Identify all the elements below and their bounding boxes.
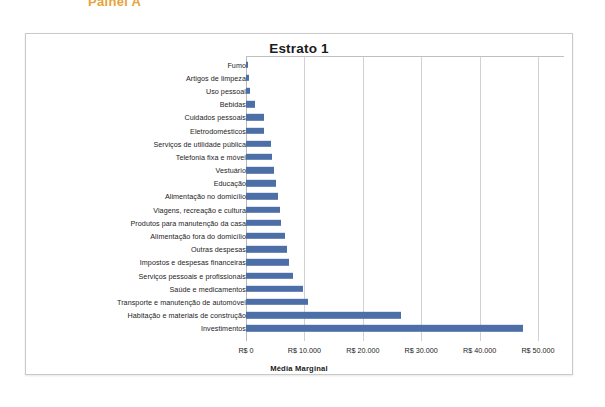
bar-row: Transporte e manutenção de automóvel <box>26 295 574 308</box>
category-label: Artigos de limpeza <box>186 73 246 82</box>
bar-row: Artigos de limpeza <box>26 71 574 84</box>
bar-row: Serviços pessoais e profissionais <box>26 269 574 282</box>
category-label: Fumo <box>227 60 246 69</box>
bar <box>246 127 264 133</box>
bar <box>246 259 289 265</box>
bar <box>246 220 281 226</box>
bar-row: Habitação e materiais de construção <box>26 309 574 322</box>
bar <box>246 299 308 305</box>
bar-row: Uso pessoal <box>26 84 574 97</box>
category-label: Eletrodomésticos <box>190 126 246 135</box>
category-label: Cuidados pessoais <box>184 113 246 122</box>
x-axis-title: Média Marginal <box>26 364 572 373</box>
bar-row: Eletrodomésticos <box>26 124 574 137</box>
category-label: Alimentação no domicílio <box>165 192 246 201</box>
category-label: Uso pessoal <box>206 86 246 95</box>
category-label: Alimentação fora do domicílio <box>150 232 246 241</box>
x-axis-line <box>246 56 564 57</box>
bar <box>246 75 249 81</box>
x-tick-label: R$ 50.000 <box>521 346 554 355</box>
chart-frame: Estrato 1 FumoArtigos de limpezaUso pess… <box>25 33 573 375</box>
bar <box>246 193 278 199</box>
bar-row: Cuidados pessoais <box>26 111 574 124</box>
bar <box>246 206 280 212</box>
x-axis-ticks: R$ 0R$ 10.000R$ 20.000R$ 30.000R$ 40.000… <box>26 346 574 360</box>
plot-area: FumoArtigos de limpezaUso pessoalBebidas… <box>26 56 574 341</box>
x-tick-label: R$ 30.000 <box>405 346 438 355</box>
bar-row: Alimentação fora do domicílio <box>26 229 574 242</box>
category-label: Transporte e manutenção de automóvel <box>117 298 246 307</box>
panel-label: Painel A <box>88 0 141 9</box>
bar-row: Vestuário <box>26 164 574 177</box>
bar-row: Serviços de utilidade pública <box>26 137 574 150</box>
bar <box>246 272 293 278</box>
bar <box>246 88 250 94</box>
x-tick-label: R$ 10.000 <box>288 346 321 355</box>
bar <box>246 167 274 173</box>
x-tick-label: R$ 40.000 <box>463 346 496 355</box>
bar <box>246 61 248 67</box>
bar <box>246 180 276 186</box>
category-label: Viagens, recreação e cultura <box>153 205 246 214</box>
bar <box>246 114 264 120</box>
category-label: Educação <box>214 179 246 188</box>
category-label: Impostos e despesas financeiras <box>140 258 246 267</box>
category-label: Investimentos <box>201 324 246 333</box>
category-label: Serviços pessoais e profissionais <box>138 271 246 280</box>
x-tick-label: R$ 20.000 <box>346 346 379 355</box>
bar-row: Outras despesas <box>26 243 574 256</box>
bar-row: Viagens, recreação e cultura <box>26 203 574 216</box>
bar-row: Telefonia fixa e móvel <box>26 150 574 163</box>
bar-row: Saúde e medicamentos <box>26 282 574 295</box>
category-label: Produtos para manutenção da casa <box>131 218 246 227</box>
category-label: Serviços de utilidade pública <box>153 139 246 148</box>
chart-title: Estrato 1 <box>26 41 572 56</box>
bar-row: Educação <box>26 177 574 190</box>
bar <box>246 141 271 147</box>
category-label: Habitação e materiais de construção <box>128 311 246 320</box>
bar <box>246 325 523 331</box>
x-tick-label: R$ 0 <box>238 346 253 355</box>
bar-row: Investimentos <box>26 322 574 335</box>
category-label: Telefonia fixa e móvel <box>176 152 246 161</box>
bar <box>246 312 401 318</box>
category-label: Outras despesas <box>191 245 246 254</box>
bar-row: Fumo <box>26 58 574 71</box>
bar <box>246 154 272 160</box>
bar-row: Bebidas <box>26 98 574 111</box>
bar-row: Alimentação no domicílio <box>26 190 574 203</box>
category-label: Saúde e medicamentos <box>169 284 246 293</box>
bar-row: Produtos para manutenção da casa <box>26 216 574 229</box>
bar <box>246 246 287 252</box>
category-label: Bebidas <box>220 100 246 109</box>
bar-row: Impostos e despesas financeiras <box>26 256 574 269</box>
bar <box>246 101 255 107</box>
category-label: Vestuário <box>216 166 246 175</box>
bar <box>246 233 285 239</box>
bar <box>246 286 303 292</box>
